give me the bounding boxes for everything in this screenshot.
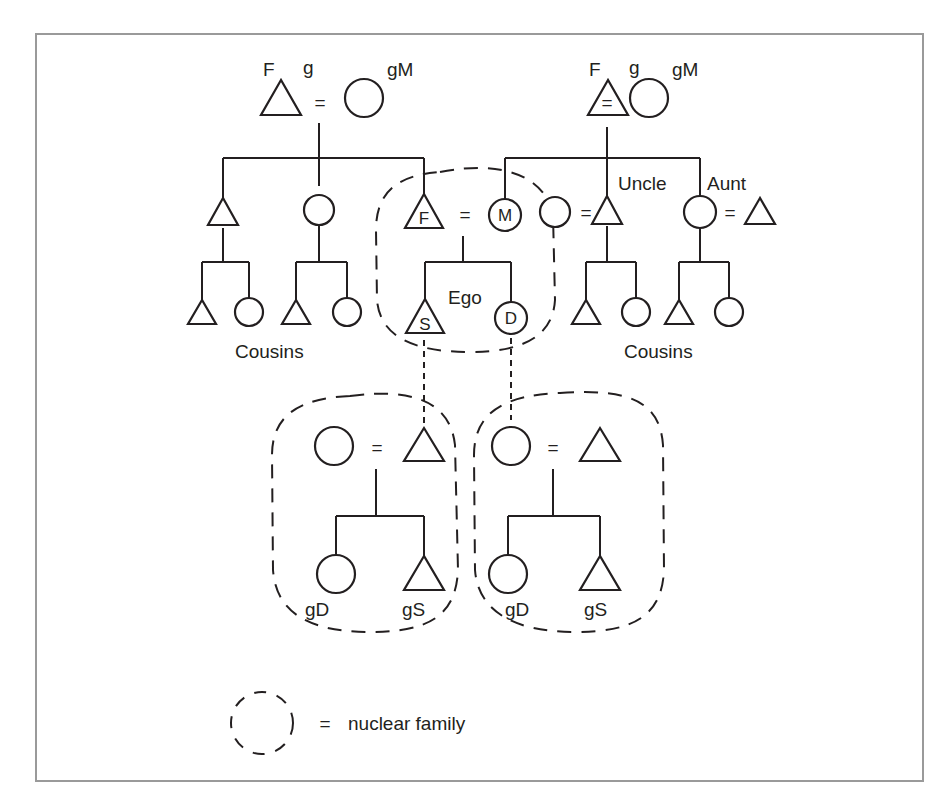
legend-equals: = xyxy=(319,713,330,734)
cousin-triangle-icon xyxy=(572,300,600,324)
marriage-equals: = xyxy=(547,437,558,458)
grandson-label: gS xyxy=(402,599,425,620)
son-label: S xyxy=(419,315,430,334)
nuclear-family-legend-icon xyxy=(231,692,293,754)
son-wife-circle-icon xyxy=(315,427,353,465)
legend: = nuclear family xyxy=(231,692,466,754)
grandfather-label: F xyxy=(263,59,275,80)
left-grandparents: F g = gM xyxy=(261,57,413,117)
daughter-circle-icon xyxy=(492,427,530,465)
cousins-label-left: Cousins xyxy=(235,341,304,362)
marriage-equals: = xyxy=(601,92,612,113)
uncle-triangle-icon xyxy=(592,196,622,224)
aunt-label: Aunt xyxy=(707,173,747,194)
cousin-circle-icon xyxy=(235,298,263,326)
cousin-triangle-icon xyxy=(665,300,693,324)
kinship-diagram: F g = gM Cousins F g = gM F = M xyxy=(0,0,952,807)
granddaughter-circle-icon xyxy=(489,555,527,593)
grandfather-prefix-label: g xyxy=(629,57,640,78)
grandson-triangle-icon xyxy=(404,556,444,590)
granddaughter-label: gD xyxy=(505,599,529,620)
grandmother-label: gM xyxy=(387,59,413,80)
granddaughter-circle-icon xyxy=(317,555,355,593)
paternal-uncle-triangle-icon xyxy=(208,198,238,225)
mother-label: M xyxy=(498,206,512,225)
paternal-aunt-circle-icon xyxy=(304,195,334,225)
marriage-equals: = xyxy=(459,204,470,225)
grandfather-triangle-icon xyxy=(261,80,301,115)
marriage-equals: = xyxy=(724,202,735,223)
granddaughter-label: gD xyxy=(305,599,329,620)
marriage-equals: = xyxy=(580,202,591,223)
daughter-label: D xyxy=(505,309,517,328)
daughter-husband-triangle-icon xyxy=(580,428,620,461)
cousin-circle-icon xyxy=(622,298,650,326)
cousins-label-right: Cousins xyxy=(624,341,693,362)
right-grandparents: F g = gM xyxy=(588,57,698,117)
marriage-equals: = xyxy=(371,437,382,458)
grandson-triangle-icon xyxy=(580,556,620,590)
grandson-label: gS xyxy=(584,599,607,620)
cousin-circle-icon xyxy=(333,298,361,326)
cousin-circle-icon xyxy=(715,298,743,326)
son-nuclear-family-boundary xyxy=(272,394,458,632)
grandmother-circle-icon xyxy=(345,79,383,117)
legend-text: nuclear family xyxy=(348,713,466,734)
ego-label: Ego xyxy=(448,287,482,308)
father-label: F xyxy=(419,209,429,228)
diagram-frame xyxy=(36,34,923,781)
son-triangle-icon xyxy=(404,428,444,461)
ego-nuclear-family-boundary xyxy=(376,168,555,352)
marriage-equals: = xyxy=(314,92,325,113)
uncle-spouse-circle-icon xyxy=(540,197,570,227)
grandmother-label: gM xyxy=(672,59,698,80)
grandfather-label: F xyxy=(589,59,601,80)
grandfather-prefix-label: g xyxy=(303,57,314,78)
aunt-spouse-triangle-icon xyxy=(745,198,775,224)
aunt-circle-icon xyxy=(684,196,716,228)
cousin-triangle-icon xyxy=(188,300,216,324)
uncle-label: Uncle xyxy=(618,173,667,194)
grandmother-circle-icon xyxy=(630,79,668,117)
cousin-triangle-icon xyxy=(282,300,310,324)
